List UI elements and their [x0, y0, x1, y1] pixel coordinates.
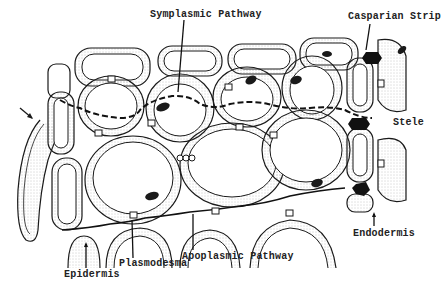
label-apoplasmic-pathway: Apoplasmic Pathway — [182, 251, 294, 262]
label-epidermis: Epidermis — [64, 269, 120, 280]
label-endodermis: Endodermis — [353, 228, 415, 239]
label-stele: Stele — [393, 117, 424, 128]
label-plasmodesma: Plasmodesma — [119, 258, 187, 269]
label-symplasmic-pathway: Symplasmic Pathway — [150, 9, 262, 20]
label-casparian-strip: Casparian Strip — [348, 11, 441, 22]
